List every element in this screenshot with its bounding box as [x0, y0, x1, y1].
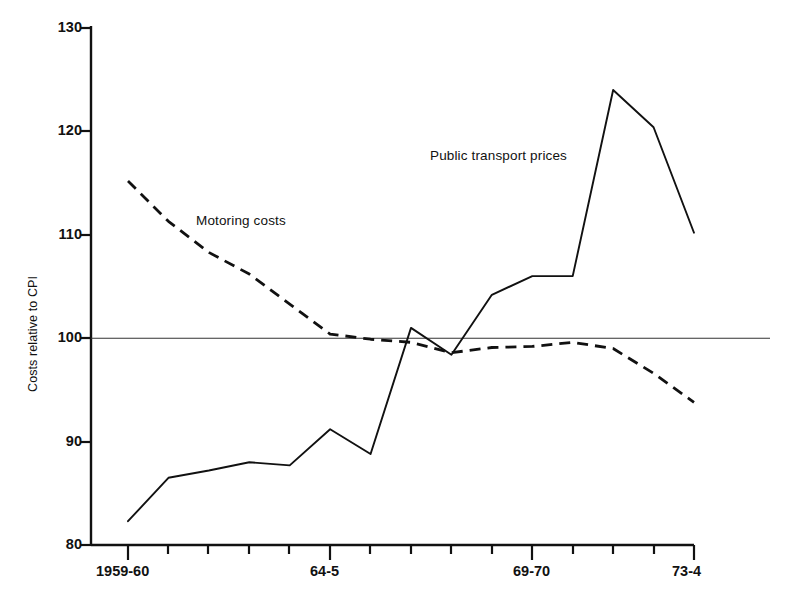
chart-plot-area — [0, 0, 791, 598]
series-line-motoring-costs — [128, 181, 694, 402]
y-tick-marks — [80, 28, 91, 545]
series-line-public-transport-prices — [128, 90, 694, 521]
chart-figure: Costs relative to CPI 130 120 110 100 90… — [0, 0, 791, 598]
x-tick-marks — [128, 545, 694, 560]
